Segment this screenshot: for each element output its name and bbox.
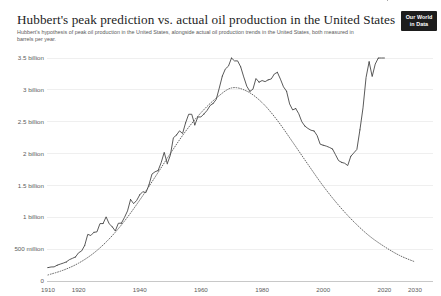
line-chart-svg: 0500 million1 billion1.5 billion2 billio… [0,0,441,296]
data-point-marker [332,148,333,149]
data-point-marker [378,58,379,59]
data-point-marker [121,223,122,224]
data-point-marker [387,0,388,1]
data-point-marker [139,194,140,195]
data-point-marker [295,108,296,109]
data-point-marker [84,245,85,246]
data-point-marker [130,199,131,200]
x-axis-tick-label: 1980 [255,286,269,293]
data-point-marker [194,124,195,125]
data-point-marker [369,61,370,62]
data-series-group [48,0,416,275]
data-point-marker [93,232,94,233]
data-point-marker [314,130,315,131]
y-axis-tick-label: 3.5 billion [18,54,45,61]
data-point-marker [103,223,104,224]
y-axis-tick-label: 0 [41,277,45,284]
data-point-marker [304,126,305,127]
x-axis-tick-label: 1920 [72,286,86,293]
x-axis-labels-group: 19101920194019601980200020202030 [41,286,422,293]
data-point-marker [268,79,269,80]
data-point-marker [57,265,58,266]
y-axis-tick-label: 2 billion [23,150,45,157]
x-axis-tick-label: 2030 [408,286,422,293]
data-point-marker [167,163,168,164]
data-point-marker [222,76,223,77]
data-point-marker [359,129,360,130]
data-point-marker [323,145,324,146]
y-axis-tick-label: 1.5 billion [18,182,45,189]
data-point-marker [341,162,342,163]
data-point-marker [231,58,232,59]
data-point-marker [277,72,278,73]
data-point-marker [158,170,159,171]
data-point-marker [66,261,67,262]
chart-page: Hubbert's peak prediction vs. actual oil… [0,0,441,296]
data-point-marker [213,103,214,104]
data-point-marker [185,122,186,123]
data-point-marker [75,256,76,257]
data-point-marker [203,113,204,114]
x-axis-tick-label: 1910 [41,286,55,293]
chart-plot-area: 0500 million1 billion1.5 billion2 billio… [0,0,441,296]
y-axis-tick-label: 3 billion [23,86,45,93]
data-point-marker [148,185,149,186]
series-line-hubbert-peak-prediction[interactable] [48,88,415,275]
data-point-marker [240,66,241,67]
data-point-marker [249,91,250,92]
y-axis-labels-group: 0500 million1 billion1.5 billion2 billio… [14,54,44,284]
x-axis-tick-label: 1940 [133,286,147,293]
data-point-marker [286,91,287,92]
data-point-marker [176,135,177,136]
series-line-actual-oil-production[interactable] [48,58,384,268]
y-axis-tick-label: 500 million [14,245,44,252]
data-point-marker [48,267,49,268]
data-point-marker [112,226,113,227]
x-axis-tick-label: 1960 [194,286,208,293]
data-point-marker [350,156,351,157]
x-axis-tick-label: 2000 [316,286,330,293]
x-axis-tick-label: 2020 [378,286,392,293]
data-point-marker [259,82,260,83]
y-axis-tick-label: 1 billion [23,213,45,220]
y-axis-tick-label: 2.5 billion [18,118,45,125]
gridlines-group [47,58,433,281]
